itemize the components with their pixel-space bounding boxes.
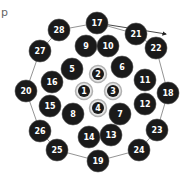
node-27: 27 [29,40,51,62]
node-26: 26 [29,120,51,142]
node-3: 3 [105,83,122,100]
node-24: 24 [128,139,150,161]
node-18: 18 [157,82,179,104]
node-label: 21 [130,30,142,39]
node-label: 22 [150,44,161,53]
node-label: 18 [162,89,174,98]
node-label: 2 [95,70,101,79]
node-11: 11 [134,69,156,91]
node-label: 8 [70,110,76,119]
node-6: 6 [111,56,133,78]
node-25: 25 [46,139,68,161]
node-label: 23 [151,126,162,135]
node-label: 1 [81,87,87,96]
node-label: 24 [133,146,145,155]
node-4: 4 [90,100,107,117]
node-label: 11 [139,76,151,85]
circle-arrangement-diagram: 1728212227910561611201815128726231413252… [0,0,184,175]
node-2: 2 [90,66,107,83]
node-label: 15 [44,102,56,111]
node-5: 5 [61,58,83,80]
node-15: 15 [39,95,61,117]
node-label: 6 [119,63,125,72]
node-label: 3 [110,87,116,96]
node-label: 27 [34,47,45,56]
node-21: 21 [125,23,147,45]
node-10: 10 [97,35,119,57]
node-17: 17 [86,12,108,34]
node-12: 12 [134,93,156,115]
node-label: 5 [69,65,75,74]
node-label: 10 [102,42,114,51]
node-19: 19 [87,150,109,172]
node-label: 13 [105,131,116,140]
node-label: 12 [139,100,150,109]
node-23: 23 [146,119,168,141]
node-label: 25 [51,146,63,155]
node-8: 8 [62,103,84,125]
node-label: 7 [117,110,123,119]
node-14: 14 [78,126,100,148]
node-1: 1 [76,83,93,100]
node-label: 20 [20,87,32,96]
node-20: 20 [15,80,37,102]
node-label: 19 [92,157,104,166]
node-label: 4 [95,104,101,113]
node-label: 14 [83,133,95,142]
node-16: 16 [41,71,63,93]
node-22: 22 [145,37,167,59]
node-label: 9 [83,42,89,51]
node-label: 17 [91,19,102,28]
node-label: 26 [34,127,46,136]
nodes-layer: 1728212227910561611201815128726231413252… [15,12,179,172]
node-7: 7 [109,103,131,125]
node-label: 28 [53,26,65,35]
node-28: 28 [48,19,70,41]
node-9: 9 [75,35,97,57]
node-13: 13 [100,124,122,146]
node-label: 16 [46,78,58,87]
